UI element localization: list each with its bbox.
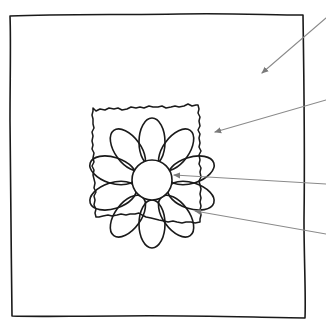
flower-diagram [0, 0, 326, 329]
flower [86, 118, 218, 248]
flower-center [132, 160, 172, 200]
leader-mat [215, 100, 326, 132]
leader-petals [195, 211, 326, 234]
leader-frame [262, 18, 326, 73]
